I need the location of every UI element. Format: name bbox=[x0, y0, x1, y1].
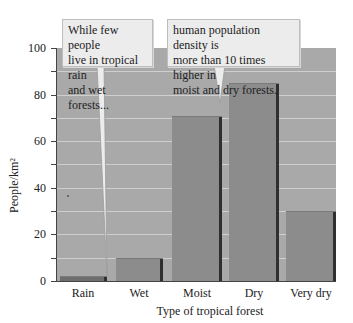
callout-rain-wet: While few people live in tropical rain a… bbox=[62, 19, 153, 67]
callout-right-line-1: human population density is bbox=[173, 23, 294, 53]
callout-left-line-3: and wet forests... bbox=[68, 83, 147, 113]
callout-right-line-3: moist and dry forests. bbox=[173, 83, 294, 98]
callout-left-line-2: live in tropical rain bbox=[68, 53, 147, 83]
callout-moist-dry: human population density is more than 10… bbox=[167, 19, 300, 67]
callout-left-line-1: While few people bbox=[68, 23, 147, 53]
callout-right-line-2: more than 10 times higher in bbox=[173, 53, 294, 83]
